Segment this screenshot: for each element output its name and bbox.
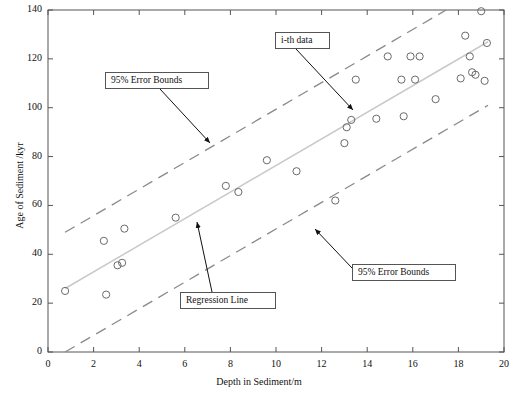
x-tick-label: 16 — [399, 358, 427, 369]
x-tick-label: 6 — [171, 358, 199, 369]
data-point — [293, 168, 300, 175]
x-axis-label: Depth in Sediment/m — [0, 376, 518, 387]
annotation-i-th-data: i-th data — [275, 32, 330, 49]
data-point — [121, 225, 128, 232]
data-point — [103, 291, 110, 298]
data-point — [341, 140, 348, 147]
data-point — [235, 188, 242, 195]
y-axis-ticks — [48, 10, 504, 352]
annotation-lower-bounds: 95% Error Bounds — [352, 264, 456, 281]
data-point — [373, 115, 380, 122]
x-tick-label: 0 — [34, 358, 62, 369]
data-point — [457, 75, 464, 82]
x-tick-label: 2 — [80, 358, 108, 369]
data-point — [462, 32, 469, 39]
data-point — [416, 53, 423, 60]
data-point — [352, 76, 359, 83]
x-tick-label: 20 — [490, 358, 518, 369]
annotation-regression-line: Regression Line — [180, 292, 276, 309]
y-tick-label: 40 — [12, 247, 42, 258]
data-point — [222, 182, 229, 189]
plot-frame — [48, 10, 504, 352]
data-point — [100, 237, 107, 244]
data-point — [384, 53, 391, 60]
data-point-markers — [62, 8, 491, 299]
y-axis-label: Age of Sediment /kyr — [14, 131, 25, 241]
x-axis-ticks — [48, 10, 504, 352]
y-tick-label: 0 — [12, 345, 42, 356]
series-line — [65, 105, 488, 352]
data-point — [466, 53, 473, 60]
annotation-arrow-i-th-data — [296, 49, 353, 110]
x-tick-label: 18 — [444, 358, 472, 369]
annotation-arrow-regression-line — [197, 222, 212, 292]
x-tick-label: 8 — [216, 358, 244, 369]
annotation-upper-bounds: 95% Error Bounds — [105, 72, 209, 89]
regression-and-bounds-lines — [65, 10, 488, 352]
chart-figure: Depth in Sediment/m Age of Sediment /kyr… — [0, 0, 518, 402]
y-tick-label: 140 — [12, 3, 42, 14]
y-tick-label: 100 — [12, 101, 42, 112]
data-point — [481, 77, 488, 84]
data-point — [478, 8, 485, 15]
x-tick-label: 12 — [308, 358, 336, 369]
series-line — [65, 10, 446, 232]
data-point — [398, 76, 405, 83]
y-tick-label: 20 — [12, 296, 42, 307]
x-tick-label: 10 — [262, 358, 290, 369]
annotation-arrow-lower-bounds — [315, 229, 352, 268]
x-tick-label: 14 — [353, 358, 381, 369]
data-point — [400, 113, 407, 120]
x-tick-label: 4 — [125, 358, 153, 369]
y-tick-label: 120 — [12, 52, 42, 63]
data-point — [332, 197, 339, 204]
data-point — [172, 214, 179, 221]
y-tick-label: 60 — [12, 198, 42, 209]
data-point — [432, 96, 439, 103]
y-tick-label: 80 — [12, 150, 42, 161]
data-point — [407, 53, 414, 60]
annotation-arrow-upper-bounds — [160, 89, 210, 143]
data-point — [263, 157, 270, 164]
data-point — [411, 76, 418, 83]
scatter-plot-canvas — [0, 0, 518, 402]
